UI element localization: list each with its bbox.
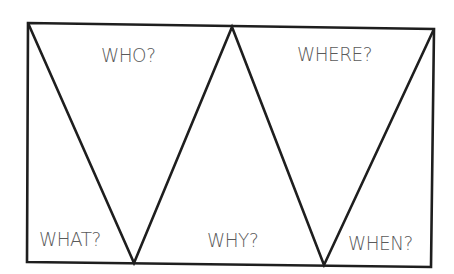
label-who: WHO?: [101, 45, 155, 65]
label-why: WHY?: [207, 230, 258, 250]
label-when: WHEN?: [348, 233, 413, 253]
label-what: WHAT?: [39, 229, 101, 249]
label-where: WHERE?: [297, 44, 372, 64]
